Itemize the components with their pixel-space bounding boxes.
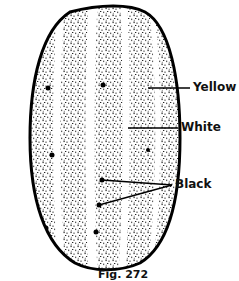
black-spot	[146, 148, 150, 152]
black-spot	[46, 86, 51, 91]
figure-caption: Fig. 272	[98, 268, 148, 281]
white-stripe	[122, 4, 126, 272]
black-spot	[50, 153, 55, 158]
label-yellow: Yellow	[193, 80, 236, 94]
black-spot	[94, 230, 99, 235]
white-stripe	[90, 4, 93, 272]
label-black: Black	[175, 177, 211, 191]
label-white: White	[181, 120, 221, 134]
black-spot	[101, 83, 106, 88]
